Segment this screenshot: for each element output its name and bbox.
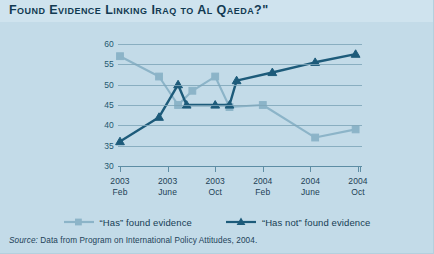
legend-item-has[interactable]: “Has” found evidence [64,216,192,228]
x-tick-month: Feb [110,187,129,198]
x-tick-year: 2003 [206,176,225,187]
data-point [117,53,124,60]
gridline [118,125,362,126]
y-tick-label: 50 [104,80,114,90]
x-tick-mark [120,166,121,172]
y-axis-tick-labels: 30354045505560 [88,44,114,166]
x-tick-year: 2004 [253,176,272,187]
data-point [351,50,360,58]
source-prefix: Source: [9,236,38,245]
series-has [117,53,359,141]
x-tick-month: June [301,187,320,198]
x-tick-month: June [158,187,177,198]
x-tick-year: 2003 [110,176,129,187]
figure-panel: Found Evidence Linking Iraq to Al Qaeda?… [0,0,434,254]
chart-legend: “Has” found evidence“Has not” found evid… [0,216,434,228]
x-tick-label: 2003June [158,176,177,197]
y-tick-label: 35 [104,141,114,151]
source-text: Data from Program on International Polic… [38,236,257,245]
y-tick-label: 60 [104,39,114,49]
data-point [312,134,319,141]
x-axis-tick-labels: 2003Feb2003June2003Oct2004Feb2004June200… [118,176,362,204]
plot-area [118,44,362,166]
x-tick-label: 2004Feb [253,176,272,197]
data-point [189,87,196,94]
x-tick-mark [358,166,359,172]
gridline [118,105,362,106]
x-tick-month: Oct [348,187,367,198]
y-tick-label: 55 [104,59,114,69]
legend-label: “Has not” found evidence [262,217,371,228]
data-point [156,73,163,80]
gridline [118,85,362,86]
x-tick-label: 2003Oct [206,176,225,197]
x-tick-year: 2004 [301,176,320,187]
legend-marker-square-icon [64,216,94,228]
gridline [118,64,362,65]
x-tick-year: 2003 [158,176,177,187]
x-tick-label: 2003Feb [110,176,129,197]
y-tick-label: 45 [104,100,114,110]
x-tick-month: Oct [206,187,225,198]
x-tick-mark [360,166,361,172]
y-tick-label: 40 [104,120,114,130]
legend-label: “Has” found evidence [100,217,192,228]
x-tick-month: Feb [253,187,272,198]
x-tick-mark [215,166,216,172]
legend-item-has-not[interactable]: “Has not” found evidence [226,216,371,228]
x-tick-mark [310,166,311,172]
data-point [352,126,359,133]
legend-marker-triangle-icon [226,216,256,228]
x-tick-mark [263,166,264,172]
chart-title: Found Evidence Linking Iraq to Al Qaeda?… [9,3,269,17]
x-axis-line [118,166,362,167]
x-tick-label: 2004Oct [348,176,367,197]
source-note: Source: Data from Program on Internation… [9,236,257,245]
x-tick-year: 2004 [348,176,367,187]
gridline [118,44,362,45]
gridline [118,146,362,147]
x-tick-mark [168,166,169,172]
data-point [212,73,219,80]
y-tick-label: 30 [104,161,114,171]
x-tick-label: 2004June [301,176,320,197]
